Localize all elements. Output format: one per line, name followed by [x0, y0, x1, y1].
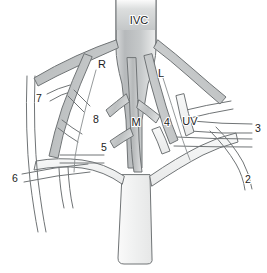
label-umbilical-vein: UV	[182, 115, 198, 127]
vessel-branch-3	[190, 121, 252, 133]
anatomical-diagram: IVC R L M UV 8 5 4 7 6 3 2	[0, 0, 267, 273]
left-hepatic-vein	[154, 40, 226, 104]
label-2: 2	[245, 173, 251, 185]
lower-left-descending-pair	[59, 167, 73, 208]
label-3: 3	[255, 122, 261, 134]
label-4: 4	[164, 116, 170, 128]
label-left-hepatic: L	[158, 67, 164, 79]
portal-vein-trunk	[118, 175, 152, 264]
label-ivc: IVC	[130, 14, 148, 26]
label-right-hepatic: R	[98, 58, 106, 70]
label-8: 8	[93, 113, 99, 125]
label-middle-hepatic: M	[131, 116, 140, 128]
label-7: 7	[36, 92, 42, 104]
label-6: 6	[12, 172, 18, 184]
vessel-diagram-canvas: IVC R L M UV 8 5 4 7 6 3 2	[0, 0, 267, 273]
label-5: 5	[101, 141, 107, 153]
